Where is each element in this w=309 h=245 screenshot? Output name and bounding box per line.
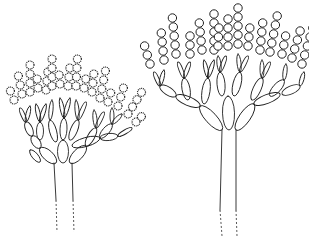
- figure-caption: [84, 238, 224, 245]
- conidium: [244, 42, 252, 50]
- conidium: [172, 50, 180, 58]
- conidium: [56, 80, 64, 88]
- conidium: [107, 89, 115, 97]
- conidium: [101, 67, 109, 75]
- conidium: [98, 85, 106, 93]
- right-stipe: [220, 130, 237, 236]
- left-conidiophore: [6, 55, 145, 232]
- conidium: [160, 56, 168, 64]
- metula: [60, 118, 68, 140]
- phialide: [92, 110, 98, 128]
- conidium: [171, 41, 179, 49]
- phialide: [152, 71, 162, 87]
- conidium: [48, 82, 56, 90]
- conidium: [278, 50, 286, 58]
- conidium: [234, 31, 242, 39]
- conidium: [124, 110, 132, 118]
- conidium: [234, 22, 242, 30]
- conidium: [137, 113, 145, 121]
- conidium: [298, 60, 306, 68]
- ramus: [174, 92, 201, 110]
- ramus: [58, 140, 69, 163]
- conidium: [138, 88, 146, 96]
- conidium: [303, 42, 309, 50]
- conidium: [64, 82, 72, 90]
- metula: [37, 122, 44, 140]
- conidium: [55, 71, 63, 79]
- ramus: [252, 90, 281, 108]
- conidium: [296, 27, 304, 35]
- conidium: [89, 79, 97, 87]
- conidium: [271, 21, 279, 29]
- conidium: [169, 23, 177, 31]
- conidium: [224, 24, 232, 32]
- conidium: [16, 81, 24, 89]
- conidium: [159, 47, 167, 55]
- conidium: [306, 33, 309, 41]
- conidium: [186, 32, 194, 40]
- phialide: [260, 61, 272, 79]
- conidium: [114, 102, 122, 110]
- right-spore-chains: [140, 4, 309, 68]
- conidium: [256, 46, 264, 54]
- metula: [180, 77, 192, 100]
- conidium: [196, 28, 204, 36]
- conidium: [198, 46, 206, 54]
- metula: [47, 119, 60, 143]
- metula: [83, 126, 99, 147]
- conidium: [234, 13, 242, 21]
- conidium: [234, 40, 242, 48]
- conidium: [266, 48, 274, 56]
- phialide: [206, 59, 216, 78]
- conidium: [268, 39, 276, 47]
- conidium: [214, 33, 222, 41]
- conidium: [246, 24, 254, 32]
- conidium: [72, 82, 80, 90]
- conidium: [291, 45, 299, 53]
- conidium: [117, 93, 125, 101]
- conidium: [90, 70, 98, 78]
- conidium: [6, 87, 14, 95]
- conidium: [234, 4, 242, 12]
- conidium: [66, 64, 74, 72]
- metula: [67, 119, 81, 142]
- right-branches: [152, 54, 306, 134]
- conidium: [259, 19, 267, 27]
- conidium: [48, 64, 56, 72]
- conidium: [288, 54, 296, 62]
- conidiophore-figure: [0, 0, 309, 245]
- conidium: [104, 98, 112, 106]
- conidium: [197, 37, 205, 45]
- phialide: [18, 107, 28, 123]
- ramus: [196, 102, 226, 133]
- conidium: [186, 50, 194, 58]
- conidium: [186, 41, 194, 49]
- conidium: [34, 84, 42, 92]
- metula: [216, 72, 226, 97]
- ramus: [222, 96, 235, 130]
- conidium: [269, 30, 277, 38]
- right-conidiophore: [140, 4, 309, 236]
- phialide: [38, 103, 48, 122]
- metula: [200, 77, 212, 104]
- conidium: [80, 84, 88, 92]
- left-stipe: [54, 163, 74, 232]
- metula: [230, 71, 244, 97]
- conidium: [224, 42, 232, 50]
- conidium: [73, 64, 81, 72]
- conidium: [245, 33, 253, 41]
- conidium: [143, 51, 151, 59]
- conidium: [140, 42, 148, 50]
- conidium: [210, 10, 218, 18]
- conidium: [168, 14, 176, 22]
- conidium: [18, 90, 26, 98]
- phialide: [117, 126, 133, 137]
- conidium: [224, 15, 232, 23]
- conidium: [133, 96, 141, 104]
- conidium: [65, 73, 73, 81]
- phialide: [62, 97, 72, 118]
- conidium: [14, 72, 22, 80]
- conidium: [170, 32, 178, 40]
- conidium: [26, 70, 34, 78]
- conidium: [72, 73, 80, 81]
